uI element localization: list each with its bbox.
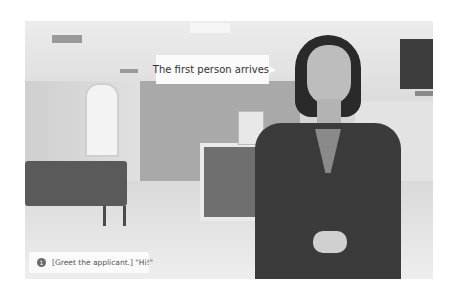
face	[307, 45, 351, 105]
speech-bubble: The first person arrives.	[156, 55, 269, 84]
choice-text: [Greet the applicant.] "Hi!"	[52, 258, 153, 267]
chair-leg	[123, 206, 126, 226]
window	[85, 83, 119, 157]
speech-bubble-tail	[269, 66, 276, 74]
clasped-hands	[313, 231, 347, 253]
wall-sign	[415, 91, 433, 96]
ceiling-vent	[120, 69, 138, 73]
ceiling-vent	[52, 35, 82, 43]
chair-leg	[103, 206, 106, 226]
wall-tv	[400, 39, 433, 89]
choice-number-badge: 1	[37, 258, 46, 267]
choice-option-1[interactable]: 1 [Greet the applicant.] "Hi!"	[29, 252, 149, 273]
speech-bubble-text: The first person arrives.	[153, 64, 272, 75]
ceiling-light	[190, 23, 230, 33]
waiting-chairs	[25, 161, 127, 206]
